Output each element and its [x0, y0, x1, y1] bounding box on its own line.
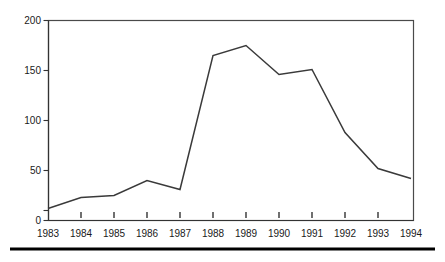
y-tick-label-200: 200	[24, 15, 41, 26]
x-tick-label-1988: 1988	[202, 228, 225, 239]
x-tick-label-1990: 1990	[268, 228, 291, 239]
x-tick-label-1994: 1994	[400, 228, 423, 239]
x-tick-label-1991: 1991	[301, 228, 324, 239]
y-tick-labels: 200 150 100 50 0	[24, 15, 41, 226]
x-tick-label-1992: 1992	[334, 228, 357, 239]
data-series-line	[48, 46, 411, 209]
y-tick-label-0: 0	[35, 215, 41, 226]
x-tick-label-1986: 1986	[136, 228, 159, 239]
x-tick-label-1984: 1984	[70, 228, 93, 239]
chart-canvas: 200 150 100 50 0 1983 1984 1985 1986 198…	[0, 0, 445, 262]
x-tick-label-1989: 1989	[235, 228, 258, 239]
x-tick-label-1985: 1985	[103, 228, 126, 239]
x-tick-labels: 1983 1984 1985 1986 1987 1988 1989 1990 …	[37, 228, 423, 239]
x-tick-label-1983: 1983	[37, 228, 60, 239]
y-tick-marks	[44, 21, 49, 221]
y-tick-label-50: 50	[30, 165, 42, 176]
line-chart: 200 150 100 50 0 1983 1984 1985 1986 198…	[0, 0, 445, 262]
y-tick-label-150: 150	[24, 65, 41, 76]
x-tick-label-1993: 1993	[367, 228, 390, 239]
y-tick-label-100: 100	[24, 115, 41, 126]
x-tick-label-1987: 1987	[169, 228, 192, 239]
x-tick-marks	[81, 212, 378, 218]
